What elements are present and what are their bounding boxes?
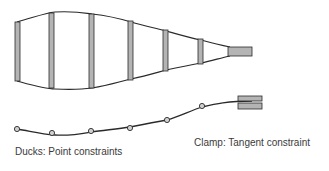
end-block bbox=[228, 47, 252, 56]
constrained-curve bbox=[14, 96, 262, 136]
rib-bar-2 bbox=[49, 13, 54, 88]
duck-icon bbox=[127, 125, 132, 130]
duck-icon bbox=[14, 126, 19, 131]
duck-icon bbox=[199, 103, 204, 108]
rib-bar-1 bbox=[15, 22, 20, 81]
clamp-label: Clamp: Tangent constraint bbox=[194, 137, 310, 148]
lofted-spline-shape bbox=[15, 12, 252, 90]
rib-bar-4 bbox=[128, 21, 133, 80]
rib-bar-5 bbox=[163, 30, 168, 71]
duck-icon bbox=[49, 130, 54, 135]
clamp-icon bbox=[238, 96, 262, 109]
rib-bar-6 bbox=[198, 39, 203, 64]
rib-bar-3 bbox=[89, 14, 94, 88]
duck-icon bbox=[88, 128, 93, 133]
duck-icon bbox=[164, 117, 169, 122]
ducks-label: Ducks: Point constraints bbox=[15, 146, 122, 157]
